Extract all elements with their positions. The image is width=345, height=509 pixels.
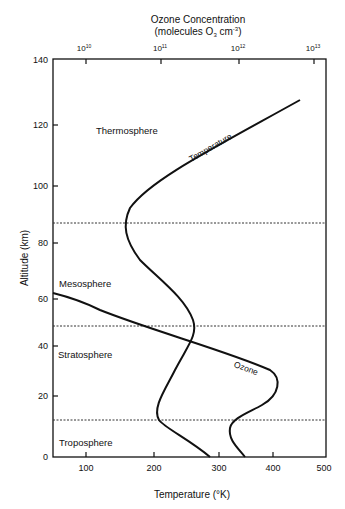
atmosphere-profile-chart: Ozone Concentration (molecules O3 cm-3) … — [0, 0, 345, 509]
x-axis-tick-labels: 100 200 300 400 500 — [78, 463, 331, 473]
svg-text:1011: 1011 — [153, 43, 167, 53]
mesosphere-label: Mesosphere — [59, 278, 111, 289]
x-axis-label: Temperature (°K) — [154, 489, 230, 500]
top-axis-ticks — [86, 59, 314, 64]
svg-text:140: 140 — [33, 55, 48, 65]
svg-text:400: 400 — [265, 463, 280, 473]
svg-text:300: 300 — [211, 463, 226, 473]
ozone-curve — [53, 293, 278, 457]
y-axis-tick-labels: 140 120 100 80 60 40 20 0 — [33, 55, 48, 462]
top-axis-tick-labels: 1010 1011 1012 1013 — [77, 43, 321, 53]
svg-text:1013: 1013 — [306, 43, 321, 53]
layer-boundaries — [53, 223, 326, 420]
temperature-curve — [126, 100, 300, 457]
top-axis-title: Ozone Concentration — [151, 14, 246, 25]
svg-text:60: 60 — [38, 294, 48, 304]
svg-text:200: 200 — [146, 463, 161, 473]
svg-text:500: 500 — [316, 463, 331, 473]
top-axis-units: (molecules O3 cm-3) — [154, 26, 241, 38]
svg-text:80: 80 — [38, 238, 48, 248]
svg-text:120: 120 — [33, 120, 48, 130]
y-axis-label: Altitude (km) — [19, 230, 30, 286]
plot-frame — [53, 59, 326, 457]
svg-text:1012: 1012 — [231, 43, 246, 53]
ozone-curve-label: Ozone — [233, 359, 260, 377]
stratosphere-label: Stratosphere — [58, 349, 112, 360]
svg-text:100: 100 — [33, 181, 48, 191]
temperature-curve-label: Temperature — [187, 131, 234, 164]
svg-text:100: 100 — [78, 463, 93, 473]
svg-text:20: 20 — [38, 391, 48, 401]
troposphere-label: Troposphere — [59, 437, 113, 448]
svg-text:0: 0 — [43, 452, 48, 462]
svg-text:40: 40 — [38, 341, 48, 351]
svg-text:1010: 1010 — [77, 43, 92, 53]
thermosphere-label: Thermosphere — [96, 125, 158, 136]
